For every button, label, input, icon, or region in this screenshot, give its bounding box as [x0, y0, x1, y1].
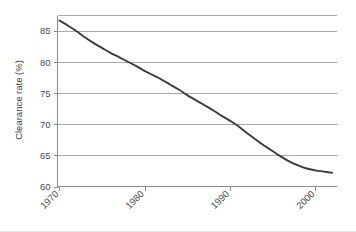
- x-axis-tick-labels: 1970198019902000: [38, 188, 317, 211]
- gridlines: [58, 16, 337, 156]
- tick-marks: [54, 32, 316, 191]
- y-axis-title: Clearance rate (%): [13, 60, 24, 140]
- y-tick-label-75: 75: [40, 88, 51, 99]
- clearance-rate-line-chart: 606570758085 1970198019902000 Clearance …: [0, 0, 356, 232]
- y-tick-label-80: 80: [40, 57, 51, 68]
- y-tick-label-60: 60: [40, 181, 51, 192]
- y-axis-title-label: Clearance rate (%): [13, 60, 24, 140]
- x-tick-label-1990: 1990: [208, 188, 231, 211]
- x-tick-label-1980: 1980: [123, 188, 146, 211]
- y-tick-label-85: 85: [40, 25, 51, 36]
- data-series: [59, 20, 332, 172]
- y-tick-label-70: 70: [40, 119, 51, 130]
- x-tick-label-2000: 2000: [294, 188, 317, 211]
- series-line-clearance-rate: [59, 20, 332, 172]
- y-axis-tick-labels: 606570758085: [40, 25, 51, 191]
- y-tick-label-65: 65: [40, 150, 51, 161]
- chart-canvas: 606570758085 1970198019902000 Clearance …: [0, 0, 356, 232]
